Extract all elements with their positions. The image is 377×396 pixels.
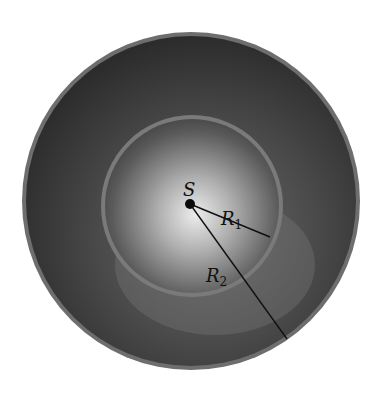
source-label: S <box>183 179 195 200</box>
spherical-shells-diagram: S R1 R2 <box>0 0 377 396</box>
point-source-dot <box>185 199 195 209</box>
